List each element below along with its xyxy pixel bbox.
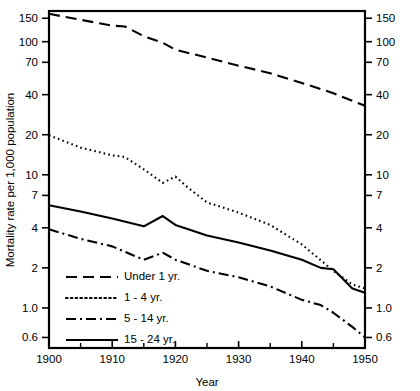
y-tick-label-right: 7 bbox=[376, 189, 382, 201]
y-axis-right-ticks: 150100704020107421.00.6 bbox=[365, 12, 395, 343]
x-tick-label: 1940 bbox=[289, 353, 315, 365]
y-tick-label-left: 0.6 bbox=[22, 331, 38, 343]
legend-label-1: 1 - 4 yr. bbox=[124, 291, 162, 303]
y-tick-label-right: 10 bbox=[376, 169, 389, 181]
y-tick-label-right: 100 bbox=[376, 36, 395, 48]
y-tick-label-left: 7 bbox=[32, 189, 38, 201]
series-line-0 bbox=[49, 14, 365, 106]
y-tick-label-right: 40 bbox=[376, 89, 389, 101]
y-tick-label-right: 70 bbox=[376, 56, 389, 68]
chart-legend: Under 1 yr.1 - 4 yr.5 - 14 yr.15 - 24 yr… bbox=[66, 270, 180, 345]
y-tick-label-left: 1.0 bbox=[22, 302, 38, 314]
y-tick-label-left: 100 bbox=[19, 36, 38, 48]
y-tick-label-left: 2 bbox=[32, 262, 38, 274]
y-tick-label-right: 1.0 bbox=[376, 302, 392, 314]
x-tick-label: 1950 bbox=[352, 353, 378, 365]
x-axis-ticks: 190019101920193019401950 bbox=[36, 341, 378, 365]
y-tick-label-right: 4 bbox=[376, 222, 383, 234]
y-tick-label-right: 20 bbox=[376, 129, 389, 141]
x-tick-label: 1930 bbox=[226, 353, 252, 365]
y-axis-left-ticks: 150100704020107421.00.6 bbox=[19, 12, 49, 343]
y-tick-label-right: 2 bbox=[376, 262, 382, 274]
chart-canvas: 190019101920193019401950 150100704020107… bbox=[0, 0, 420, 391]
x-tick-label: 1910 bbox=[99, 353, 125, 365]
mortality-rate-chart: 190019101920193019401950 150100704020107… bbox=[0, 0, 420, 391]
series-line-2 bbox=[49, 229, 365, 337]
legend-label-2: 5 - 14 yr. bbox=[124, 312, 169, 324]
y-axis-title: Mortality rate per 1,000 population bbox=[4, 93, 16, 268]
series-line-3 bbox=[49, 205, 365, 292]
y-tick-label-left: 40 bbox=[25, 89, 38, 101]
x-axis-title: Year bbox=[195, 376, 218, 388]
y-tick-label-left: 4 bbox=[32, 222, 39, 234]
series-lines bbox=[49, 14, 365, 338]
y-tick-label-right: 150 bbox=[376, 12, 395, 24]
y-tick-label-left: 20 bbox=[25, 129, 38, 141]
y-tick-label-right: 0.6 bbox=[376, 331, 392, 343]
y-tick-label-left: 10 bbox=[25, 169, 38, 181]
legend-label-0: Under 1 yr. bbox=[124, 270, 180, 282]
legend-label-3: 15 - 24 yr. bbox=[124, 333, 175, 345]
y-tick-label-left: 150 bbox=[19, 12, 38, 24]
y-tick-label-left: 70 bbox=[25, 56, 38, 68]
x-tick-label: 1920 bbox=[163, 353, 189, 365]
x-tick-label: 1900 bbox=[36, 353, 62, 365]
